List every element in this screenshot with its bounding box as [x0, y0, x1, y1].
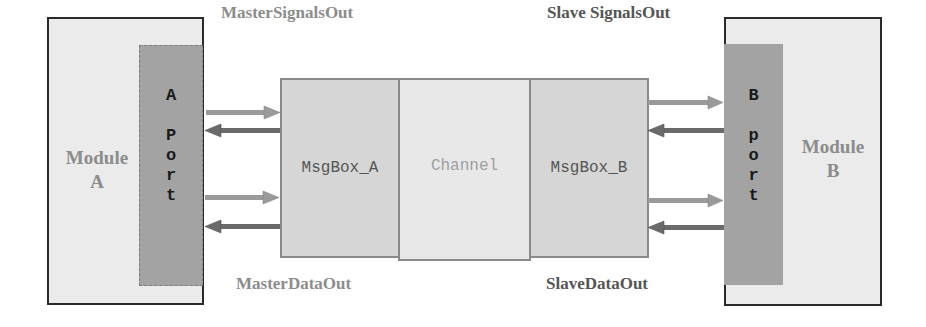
arrow-left-icon	[648, 221, 724, 234]
arrow-left-icon	[648, 124, 724, 137]
arrow-right-icon	[648, 194, 723, 207]
arrow-right-icon	[205, 191, 279, 204]
arrows-layer	[0, 0, 926, 327]
arrow-left-icon	[205, 124, 280, 137]
arrow-right-icon	[206, 106, 280, 119]
arrow-left-icon	[205, 220, 280, 233]
arrow-right-icon	[648, 96, 723, 109]
